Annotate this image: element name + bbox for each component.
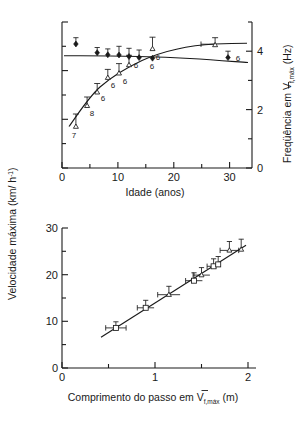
top-xtick-20: 20 [168, 171, 180, 183]
bottom-x-axis-title-tail: (m) [220, 391, 239, 403]
top-velocity-n-label: 6 [101, 94, 106, 103]
bottom-x-axis-title-pre: Comprimento do passo em V [68, 391, 204, 403]
bottom-panel: 0 10 20 30 0 1 2 Comprimento do passo em… [46, 222, 256, 405]
bottom-ytick-30: 30 [46, 222, 58, 234]
top-x-axis-title: Idade (anos) [126, 186, 185, 198]
top-velocity-series: 7 8 6 6 [72, 37, 218, 140]
top-velocity-point [201, 38, 218, 47]
bottom-series [106, 239, 244, 330]
bottom-ytick-10: 10 [46, 315, 58, 327]
bottom-point [239, 239, 244, 251]
y-axis-title-left: Velocidade máxima (km/ h-1) [6, 168, 18, 300]
bottom-xtick-2: 2 [245, 371, 251, 383]
top-xtick-30: 30 [223, 171, 235, 183]
bottom-x-axis-title: Comprimento do passo em Vf,máx (m) [68, 391, 239, 405]
top-frequency-n-label: 6 [134, 61, 139, 70]
top-ytick-right-2: 2 [257, 104, 263, 116]
bottom-point [158, 286, 180, 297]
bottom-xtick-0: 0 [59, 371, 65, 383]
top-xtick-10: 10 [112, 171, 124, 183]
y-axis-title-right-sub: f,máx [288, 66, 295, 83]
top-x-tick-labels: 0 10 20 30 [59, 171, 236, 183]
figure-container: Velocidade máxima (km/ h-1) [0, 0, 306, 421]
top-velocity-n-label: 8 [90, 109, 95, 118]
top-xtick-0: 0 [59, 171, 65, 183]
y-axis-title-left-tail: ) [6, 168, 18, 172]
top-right-tick-labels: 0 2 4 [257, 45, 263, 174]
svg-text:Velocidade máxima (km/ h-1): Velocidade máxima (km/ h-1) [6, 168, 18, 300]
top-ytick-right-4: 4 [257, 45, 263, 57]
y-axis-title-right-tail: (Hz) [281, 44, 293, 67]
top-velocity-n-label: 6 [156, 53, 161, 62]
y-axis-title-right: Freqüência em Vf,máx (Hz) [281, 44, 295, 163]
bottom-xtick-1: 1 [152, 371, 158, 383]
top-ytick-right-0: 0 [257, 162, 263, 174]
top-frequency-point [95, 48, 100, 56]
bottom-x-tick-labels: 0 1 2 [59, 371, 251, 383]
bottom-point [216, 257, 221, 267]
top-velocity-n-label: 6 [123, 77, 128, 86]
bottom-regression-line [101, 245, 246, 337]
y-axis-title-right-pre: Freqüência em V [281, 83, 293, 163]
bottom-y-minor-ticks [62, 251, 66, 344]
top-right-major-ticks [246, 51, 252, 168]
top-velocity-n-label: 6 [111, 81, 116, 90]
bottom-ytick-20: 20 [46, 269, 58, 281]
bottom-x-major-ticks [62, 362, 248, 368]
top-frequency-point [126, 48, 131, 59]
y-axis-title-left-text: Velocidade máxima (km/ h [6, 177, 18, 300]
top-left-minor-ticks [62, 46, 66, 143]
top-velocity-point: 8 [84, 97, 95, 118]
top-velocity-point: 6 [105, 69, 116, 90]
top-velocity-n-label: 7 [72, 131, 77, 140]
bottom-x-axis-title-sub: f,máx [204, 398, 221, 405]
top-x-minor-ticks [90, 164, 202, 168]
figure-svg: Velocidade máxima (km/ h-1) [0, 0, 306, 421]
top-frequency-n-label: 6 [150, 62, 155, 71]
top-frequency-point [73, 38, 78, 47]
top-panel: 0 2 4 0 10 20 30 Idade (anos) Freqüência… [59, 22, 295, 198]
top-right-minor-ticks [248, 22, 252, 139]
top-frequency-n-label: 6 [236, 54, 241, 63]
bottom-ytick-0: 0 [52, 362, 58, 374]
bottom-y-tick-labels: 0 10 20 30 [46, 222, 58, 374]
